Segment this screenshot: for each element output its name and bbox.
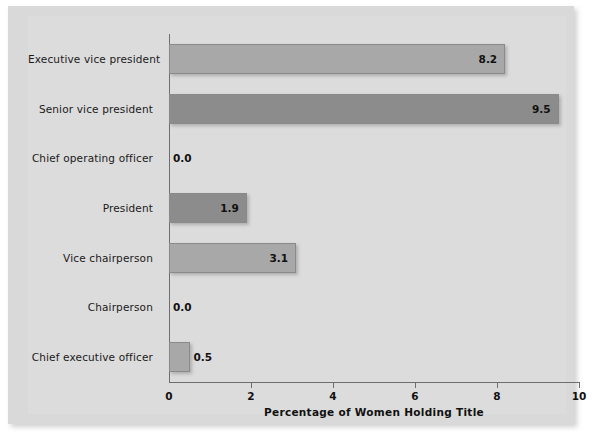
x-axis-tick bbox=[579, 382, 580, 388]
bar-row[interactable]: 0.0 bbox=[169, 292, 579, 322]
x-axis-tick bbox=[497, 382, 498, 388]
bar-row[interactable]: 8.2 bbox=[169, 44, 579, 74]
bar-value-label: 0.0 bbox=[173, 292, 192, 322]
bar-row[interactable]: 1.9 bbox=[169, 193, 579, 223]
bar[interactable] bbox=[169, 342, 190, 372]
x-axis-tick-label: 8 bbox=[493, 390, 500, 402]
bar-value-label: 1.9 bbox=[169, 193, 239, 223]
bar-row[interactable]: 0.5 bbox=[169, 342, 579, 372]
bar-value-label: 3.1 bbox=[169, 243, 288, 273]
x-axis-tick bbox=[251, 382, 252, 388]
category-label: Chief operating officer bbox=[28, 152, 153, 164]
chart-panel: Executive vice presidentSenior vice pres… bbox=[8, 6, 574, 424]
bar-value-label: 0.5 bbox=[194, 342, 213, 372]
bar-row[interactable]: 0.0 bbox=[169, 143, 579, 173]
x-axis-tick-label: 10 bbox=[572, 390, 587, 402]
x-axis-tick-label: 2 bbox=[247, 390, 254, 402]
x-axis-title: Percentage of Women Holding Title bbox=[169, 406, 579, 418]
category-label: Chairperson bbox=[28, 301, 153, 313]
x-axis-tick bbox=[415, 382, 416, 388]
x-axis-tick-label: 0 bbox=[165, 390, 172, 402]
bar-row[interactable]: 9.5 bbox=[169, 94, 579, 124]
category-label: President bbox=[28, 202, 153, 214]
chart-root: Executive vice presidentSenior vice pres… bbox=[0, 0, 599, 435]
bar-value-label: 0.0 bbox=[173, 143, 192, 173]
category-label: Chief executive officer bbox=[28, 351, 153, 363]
plot-area: 0246810 8.29.50.01.93.10.00.5 bbox=[169, 34, 579, 382]
category-axis-labels: Executive vice presidentSenior vice pres… bbox=[28, 34, 153, 382]
x-axis-tick-label: 4 bbox=[329, 390, 336, 402]
bar-row[interactable]: 3.1 bbox=[169, 243, 579, 273]
category-axis-line bbox=[169, 382, 579, 383]
category-label: Senior vice president bbox=[28, 103, 153, 115]
plot-surface: Executive vice presidentSenior vice pres… bbox=[28, 16, 566, 414]
category-label: Executive vice president bbox=[28, 53, 153, 65]
x-axis-tick bbox=[333, 382, 334, 388]
category-label: Vice chairperson bbox=[28, 252, 153, 264]
bar-value-label: 8.2 bbox=[169, 44, 497, 74]
x-axis-tick-label: 6 bbox=[411, 390, 418, 402]
bar-value-label: 9.5 bbox=[169, 94, 551, 124]
